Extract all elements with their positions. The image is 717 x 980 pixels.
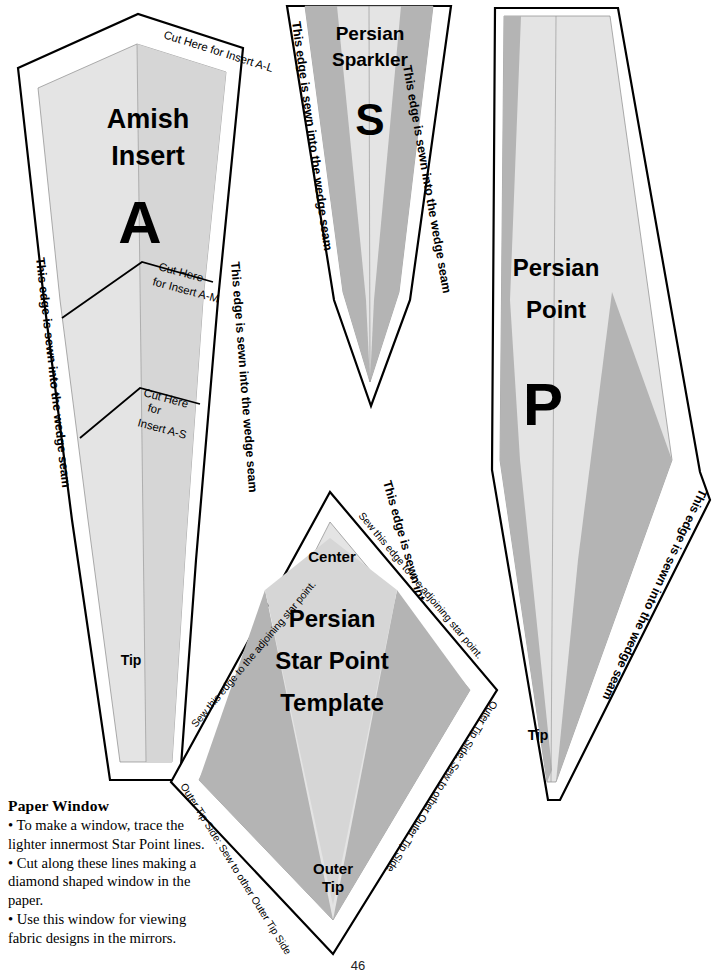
persian-star-point-title-line2: Star Point: [275, 647, 388, 674]
persian-star-point-outer-tip-label-line2: Tip: [322, 878, 344, 895]
template-persian-sparkler[interactable]: Persian Sparkler S This edge is sewn int…: [287, 6, 454, 406]
persian-sparkler-title-line1: Persian: [336, 23, 405, 44]
persian-point-title-line2: Point: [526, 296, 586, 323]
paper-window-heading: Paper Window: [8, 797, 223, 815]
paper-window-bullet-3: • Use this window for viewing fabric des…: [8, 910, 223, 948]
persian-star-point-title-line1: Persian: [289, 605, 376, 632]
amish-insert-title-line2: Insert: [111, 141, 185, 171]
amish-insert-letter: A: [118, 189, 161, 256]
amish-insert-tip-label: Tip: [121, 652, 142, 668]
page-number: 46: [351, 958, 365, 973]
paper-window-bullet-1: • To make a window, trace the lighter in…: [8, 816, 223, 854]
persian-point-title-line1: Persian: [513, 254, 600, 281]
persian-point-letter: P: [523, 371, 563, 438]
persian-sparkler-letter: S: [355, 95, 384, 144]
persian-sparkler-title-line2: Sparkler: [332, 49, 409, 70]
persian-point-tip-label: Tip: [528, 727, 549, 743]
persian-star-point-outer-tip-label-line1: Outer: [313, 860, 353, 877]
pattern-sheet-page: Amish Insert A Tip Cut Here for Insert A…: [0, 0, 717, 980]
persian-star-point-title-line3: Template: [280, 689, 384, 716]
paper-window-bullet-list: • To make a window, trace the lighter in…: [8, 816, 223, 948]
paper-window-instructions: Paper Window • To make a window, trace t…: [8, 797, 223, 948]
persian-star-point-center-label: Center: [308, 548, 356, 565]
paper-window-bullet-2: • Cut along these lines making a diamond…: [8, 854, 223, 910]
amish-insert-title-line1: Amish: [107, 104, 190, 134]
amish-insert-right-edge-label: This edge is sewn into the wedge seam: [228, 261, 260, 493]
